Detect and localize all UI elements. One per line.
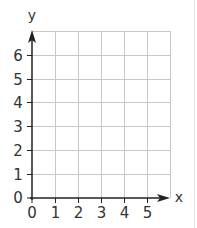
y-tick-label: 2 [13,142,23,160]
y-tick-label: 1 [13,166,23,184]
y-tick-label: 0 [13,189,23,207]
x-tick-label: 1 [51,204,61,222]
x-axis-label: x [175,189,183,205]
x-tick-label: 5 [143,204,153,222]
y-tick-label: 5 [13,71,23,89]
y-tick-labels: 0 1 2 3 4 5 6 [13,47,23,208]
x-tick-label: 2 [74,204,84,222]
y-axis-label: y [28,7,36,23]
x-tick-labels: 0 1 2 3 4 5 [27,204,152,222]
coordinate-grid: 0 1 2 3 4 5 0 1 2 3 4 5 6 y x [0,0,197,228]
y-tick-label: 3 [13,118,23,136]
grid-lines [32,31,171,198]
x-tick-label: 4 [120,204,130,222]
y-tick-label: 6 [13,47,23,65]
y-tick-label: 4 [13,94,23,112]
x-tick-label: 3 [97,204,107,222]
x-tick-label: 0 [27,204,37,222]
page-divider [194,0,195,228]
x-axis [30,194,170,202]
